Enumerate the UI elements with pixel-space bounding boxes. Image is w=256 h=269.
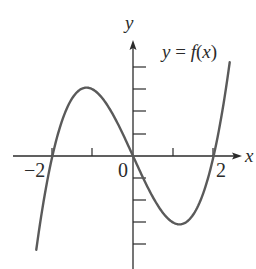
function-plot	[0, 0, 256, 269]
x-tick-label-neg2: −2	[24, 160, 45, 180]
x-tick-label-2: 2	[216, 160, 226, 180]
function-label-eq: =	[170, 41, 190, 62]
function-label-x: x	[202, 41, 210, 62]
function-label: y = f(x)	[162, 42, 217, 61]
function-label-paren-close: )	[211, 41, 217, 62]
y-axis-label: y	[125, 13, 133, 32]
x-tick-label-0: 0	[118, 160, 128, 180]
x-axis-label: x	[245, 146, 253, 165]
